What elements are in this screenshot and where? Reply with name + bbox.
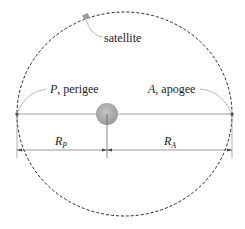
perigee-leader-line bbox=[17, 89, 47, 114]
satellite-label: satellite bbox=[104, 31, 141, 45]
apogee-label: A, apogee bbox=[147, 82, 195, 96]
satellite-leader-line bbox=[86, 20, 103, 37]
satellite-icon bbox=[82, 13, 90, 20]
perigee-radius-label: RP bbox=[54, 134, 67, 150]
apogee-leader-line bbox=[200, 89, 232, 114]
apogee-radius-label: RA bbox=[163, 134, 176, 150]
orbit-diagram: satellite P, perigee A, apogee RP RA bbox=[0, 0, 245, 229]
perigee-label: P, perigee bbox=[49, 82, 99, 96]
